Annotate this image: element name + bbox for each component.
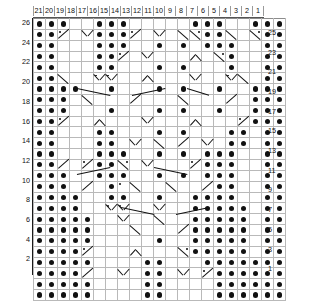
cell-r23-c12[interactable] bbox=[142, 51, 154, 62]
cell-r5-c20[interactable] bbox=[46, 246, 58, 257]
cell-r12-c6[interactable] bbox=[214, 170, 226, 181]
cell-r22-c20[interactable] bbox=[46, 62, 58, 73]
cell-r13-c4[interactable] bbox=[238, 159, 250, 170]
cell-r22-c4[interactable] bbox=[238, 62, 250, 73]
cell-r3-c19[interactable] bbox=[58, 268, 70, 279]
cell-r4-c16[interactable] bbox=[94, 257, 106, 268]
cell-r11-c5[interactable] bbox=[226, 181, 238, 192]
cell-r22-c19[interactable] bbox=[58, 62, 70, 73]
cell-r16-c11[interactable] bbox=[154, 127, 166, 138]
cell-r11-c11[interactable] bbox=[154, 181, 166, 192]
cell-r18-c6[interactable] bbox=[214, 105, 226, 116]
cell-r17-c19[interactable] bbox=[58, 116, 70, 127]
cell-r8-c6[interactable] bbox=[214, 214, 226, 225]
cell-r4-c10[interactable] bbox=[166, 257, 178, 268]
cell-r9-c5[interactable] bbox=[226, 203, 238, 214]
cell-r26-c7[interactable] bbox=[202, 19, 214, 30]
cell-r1-c5[interactable] bbox=[226, 290, 238, 301]
cell-r17-c2[interactable] bbox=[262, 116, 274, 127]
cell-r14-c15[interactable] bbox=[106, 149, 118, 160]
cell-r19-c21[interactable] bbox=[34, 94, 46, 105]
cell-r26-c14[interactable] bbox=[118, 19, 130, 30]
cell-r21-c13[interactable] bbox=[130, 73, 142, 84]
cell-r15-c10[interactable] bbox=[166, 138, 178, 149]
cell-r8-c15[interactable] bbox=[106, 214, 118, 225]
cell-r13-c9[interactable] bbox=[178, 159, 190, 170]
cell-r17-c8[interactable] bbox=[190, 116, 202, 127]
cell-r16-c21[interactable] bbox=[34, 127, 46, 138]
cell-r2-c12[interactable] bbox=[142, 279, 154, 290]
cell-r17-c14[interactable] bbox=[118, 116, 130, 127]
cell-r19-c20[interactable] bbox=[46, 94, 58, 105]
cell-r14-c7[interactable] bbox=[202, 149, 214, 160]
cell-r7-c3[interactable] bbox=[250, 225, 262, 236]
cell-r23-c20[interactable] bbox=[46, 51, 58, 62]
cell-r10-c3[interactable] bbox=[250, 192, 262, 203]
cell-r15-c4[interactable] bbox=[238, 138, 250, 149]
cell-r9-c3[interactable] bbox=[250, 203, 262, 214]
cell-r1-c9[interactable] bbox=[178, 290, 190, 301]
cell-r12-c14[interactable] bbox=[118, 170, 130, 181]
cell-r8-c12[interactable] bbox=[142, 214, 154, 225]
cell-r24-c13[interactable] bbox=[130, 40, 142, 51]
cell-r26-c15[interactable] bbox=[106, 19, 118, 30]
cell-r21-c4[interactable] bbox=[238, 73, 250, 84]
cell-r2-c5[interactable] bbox=[226, 279, 238, 290]
cell-r20-c12[interactable] bbox=[142, 84, 154, 95]
cell-r6-c7[interactable] bbox=[202, 235, 214, 246]
cell-r18-c4[interactable] bbox=[238, 105, 250, 116]
cell-r15-c3[interactable] bbox=[250, 138, 262, 149]
cell-r4-c15[interactable] bbox=[106, 257, 118, 268]
cell-r16-c15[interactable] bbox=[106, 127, 118, 138]
cell-r15-c13[interactable] bbox=[130, 138, 142, 149]
cell-r24-c10[interactable] bbox=[166, 40, 178, 51]
cell-r10-c10[interactable] bbox=[166, 192, 178, 203]
cell-r1-c20[interactable] bbox=[46, 290, 58, 301]
cell-r24-c4[interactable] bbox=[238, 40, 250, 51]
cell-r24-c11[interactable] bbox=[154, 40, 166, 51]
cell-r9-c7[interactable] bbox=[202, 203, 214, 214]
cell-r25-c4[interactable] bbox=[238, 29, 250, 40]
cell-r12-c19[interactable] bbox=[58, 170, 70, 181]
cell-r21-c5[interactable] bbox=[226, 73, 238, 84]
cell-r20-c4[interactable] bbox=[238, 84, 250, 95]
cell-r15-c5[interactable] bbox=[226, 138, 238, 149]
cell-r1-c7[interactable] bbox=[202, 290, 214, 301]
cell-r19-c5[interactable] bbox=[226, 94, 238, 105]
cell-r5-c12[interactable] bbox=[142, 246, 154, 257]
cell-r5-c14[interactable] bbox=[118, 246, 130, 257]
cell-r7-c8[interactable] bbox=[190, 225, 202, 236]
cell-r12-c20[interactable] bbox=[46, 170, 58, 181]
cell-r12-c10[interactable] bbox=[166, 170, 178, 181]
cell-r17-c15[interactable] bbox=[106, 116, 118, 127]
cell-r24-c20[interactable] bbox=[46, 40, 58, 51]
cell-r9-c21[interactable] bbox=[34, 203, 46, 214]
cell-r9-c11[interactable] bbox=[154, 203, 166, 214]
cell-r7-c7[interactable] bbox=[202, 225, 214, 236]
cell-r2-c8[interactable] bbox=[190, 279, 202, 290]
cell-r23-c8[interactable] bbox=[190, 51, 202, 62]
cell-r21-c11[interactable] bbox=[154, 73, 166, 84]
cell-r11-c21[interactable] bbox=[34, 181, 46, 192]
cell-r19-c7[interactable] bbox=[202, 94, 214, 105]
cell-r7-c6[interactable] bbox=[214, 225, 226, 236]
cell-r15-c8[interactable] bbox=[190, 138, 202, 149]
cell-r2-c14[interactable] bbox=[118, 279, 130, 290]
cell-r4-c13[interactable] bbox=[130, 257, 142, 268]
cell-r19-c18[interactable] bbox=[70, 94, 82, 105]
cell-r11-c9[interactable] bbox=[178, 181, 190, 192]
cell-r22-c8[interactable] bbox=[190, 62, 202, 73]
cell-r12-c17[interactable] bbox=[82, 170, 94, 181]
cell-r9-c20[interactable] bbox=[46, 203, 58, 214]
cell-r16-c6[interactable] bbox=[214, 127, 226, 138]
cell-r20-c6[interactable] bbox=[214, 84, 226, 95]
cell-r25-c14[interactable] bbox=[118, 29, 130, 40]
cell-r23-c9[interactable] bbox=[178, 51, 190, 62]
cell-r20-c20[interactable] bbox=[46, 84, 58, 95]
cell-r2-c15[interactable] bbox=[106, 279, 118, 290]
cell-r26-c19[interactable] bbox=[58, 19, 70, 30]
cell-r2-c11[interactable] bbox=[154, 279, 166, 290]
cell-r26-c10[interactable] bbox=[166, 19, 178, 30]
cell-r23-c17[interactable] bbox=[82, 51, 94, 62]
cell-r25-c3[interactable] bbox=[250, 29, 262, 40]
